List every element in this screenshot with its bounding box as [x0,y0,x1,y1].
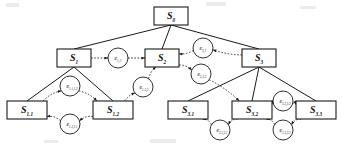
state-label-subscript: 1.1 [27,111,34,117]
state-transition-diagram: e1,2e3,2e2,3.2e1.1,1.2e1.2,1.1e1.2,2e3.2… [0,0,342,145]
transition-edge-in [228,119,237,125]
transition-edge-in [43,91,61,101]
tree-edge [171,25,259,49]
state-label-subscript: 3.3 [315,111,323,117]
transition-edge-in [80,116,93,121]
state-node-s1-2[interactable]: S1.2 [93,101,133,119]
state-label-subscript: 3.1 [187,111,195,117]
edge-label-node-e3-2[interactable]: e3,2 [193,38,213,58]
transition-edge-out [179,50,193,54]
tree-edge [74,25,171,49]
tree-edge [252,67,259,101]
state-label-subscript: 3 [259,59,263,65]
state-node-s2[interactable]: S2 [145,49,179,67]
transition-edge-out [148,67,156,79]
transition-edge-out [79,91,97,101]
edge-label-node-e3-3-3-2[interactable]: e3.3,3.2 [273,120,293,140]
transition-edge-out [266,119,275,125]
state-label-subscript: 2 [162,59,166,65]
state-node-s1[interactable]: S1 [57,49,91,67]
edge-label-node-e3-2-3-1[interactable]: e3.2,3.1 [210,120,230,140]
transition-edge-out [47,116,60,121]
state-label-subscript: 1 [75,59,78,65]
edge-label-node-e3-2-3-3[interactable]: e3.2,3.3 [273,91,293,111]
edge-label-node-e1-2-1-1[interactable]: e1.2,1.1 [60,114,80,134]
state-node-s3[interactable]: S3 [242,49,276,67]
transition-edge-in [292,119,302,125]
tree-edge [162,25,171,49]
edge-label-node-e2-3-2[interactable]: e2,3.2 [191,64,211,84]
state-node-s0[interactable]: S0 [154,7,188,25]
edge-label-node-e1-1-1-2[interactable]: e1.1,1.2 [60,76,80,96]
state-node-s3-1[interactable]: S3.1 [168,101,208,119]
state-label-subscript: 3.2 [251,111,259,117]
transition-edge-in [125,93,135,101]
transition-edge-in [213,50,242,55]
state-node-s3-2[interactable]: S3.2 [232,101,272,119]
transition-edge-out [209,80,239,101]
state-label-subscript: 1.2 [113,111,120,117]
diagram-canvas: e1,2e3,2e2,3.2e1.1,1.2e1.2,1.1e1.2,2e3.2… [0,0,342,145]
edge-label-node-e1-2[interactable]: e1,2 [108,48,128,68]
state-label-subscript: 0 [172,17,175,23]
transition-edge-out [202,119,211,125]
state-node-s3-3[interactable]: S3.3 [296,101,336,119]
edge-label-node-e1-2-2[interactable]: e1.2,2 [133,77,153,97]
transition-edge-in [179,65,192,70]
state-node-s1-1[interactable]: S1.1 [7,101,47,119]
